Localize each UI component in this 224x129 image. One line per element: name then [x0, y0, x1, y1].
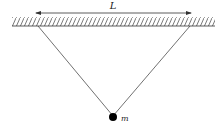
mass-bob	[109, 113, 117, 121]
length-label: L	[109, 0, 117, 11]
right-string	[113, 26, 190, 116]
ceiling-hatch	[12, 17, 215, 26]
pendulum-diagram: L m	[0, 0, 224, 129]
mass-label: m	[121, 114, 129, 123]
left-string	[38, 26, 113, 116]
length-arrow	[35, 11, 192, 15]
